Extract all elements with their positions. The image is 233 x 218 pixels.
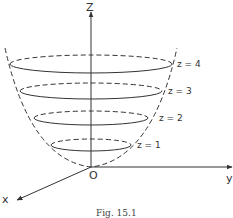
level-label-z2: z = 2	[159, 113, 183, 123]
figure-caption: Fig. 15.1	[96, 208, 137, 218]
y-axis-label: y	[226, 172, 233, 185]
level-label-z3: z = 3	[168, 86, 192, 96]
z-axis-label: Z	[86, 1, 94, 14]
origin-label: O	[89, 169, 98, 182]
paraboloid-figure: Z y x O z = 4 z = 3 z = 2 z = 1 Fig. 15.…	[0, 0, 233, 218]
x-axis	[17, 167, 91, 200]
x-axis-label: x	[2, 193, 9, 206]
level-label-z1: z = 1	[137, 140, 161, 150]
level-label-z4: z = 4	[177, 59, 201, 69]
